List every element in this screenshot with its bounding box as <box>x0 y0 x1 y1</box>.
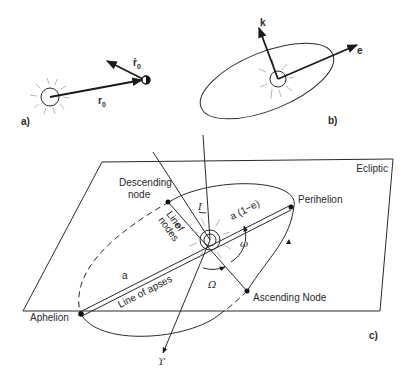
vernal-equinox-symbol: ϒ <box>158 356 166 367</box>
label-Omega: Ω <box>207 279 216 290</box>
label-semi-major-axis: a <box>122 270 128 281</box>
ascending-node-point <box>245 289 250 294</box>
sun-icon <box>259 59 294 99</box>
descending-node-point <box>166 200 171 205</box>
panel-a-label: a) <box>21 116 30 127</box>
label-ecliptic: Ecliptic <box>356 163 388 174</box>
inclination-arc <box>199 212 206 213</box>
label-perihelion: Perihelion <box>298 194 342 205</box>
panel-b-label: b) <box>328 115 337 126</box>
orbital-elements-diagram: r0 ṙ0 a) k e b) Ecliptic <box>0 0 416 384</box>
Omega-arc <box>203 267 225 269</box>
position-vector-r0 <box>50 80 142 97</box>
vernal-equinox-vector <box>163 240 210 353</box>
panel-c-label: c) <box>369 330 378 341</box>
perihelion-point <box>289 205 294 210</box>
planet-icon <box>142 76 150 84</box>
orbit-solid-upper <box>169 184 294 291</box>
label-ascending-node: Ascending Node <box>253 292 327 303</box>
label-omega: ω <box>240 238 248 249</box>
sun-icon <box>30 78 69 114</box>
label-perihelion-distance: a (1−e) <box>228 197 261 221</box>
orbit-direction-arrow <box>286 239 291 244</box>
e-vector <box>278 45 357 79</box>
orbit-solid-lower <box>80 312 220 336</box>
label-k: k <box>260 17 266 28</box>
orbit-ellipse-b <box>190 28 343 135</box>
k-vector <box>259 28 278 79</box>
label-descending-node: Descending node <box>119 177 175 200</box>
panel-a: r0 ṙ0 a) <box>21 57 150 127</box>
label-aphelion: Aphelion <box>30 312 69 323</box>
label-r0dot: ṙ0 <box>133 57 141 70</box>
label-inclination: I <box>197 201 203 212</box>
aphelion-point <box>78 311 84 317</box>
label-line-of-nodes: Lineof nodes <box>156 209 189 243</box>
label-e: e <box>357 45 363 56</box>
label-r0: r0 <box>98 95 106 108</box>
panel-c: Ecliptic <box>23 135 393 367</box>
panel-b: k e b) <box>190 17 363 134</box>
